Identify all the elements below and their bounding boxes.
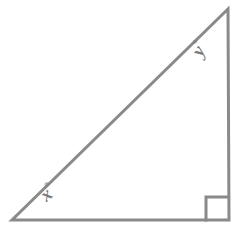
geometry-figure: x° y° — [0, 0, 247, 234]
right-triangle-svg — [0, 0, 247, 234]
figure-background — [0, 0, 247, 234]
